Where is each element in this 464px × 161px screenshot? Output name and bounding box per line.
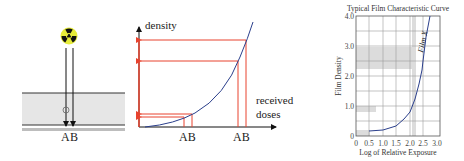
y-axis-title: Film Density xyxy=(334,56,343,96)
svg-text:1.5: 1.5 xyxy=(391,139,401,148)
svg-text:3.0: 3.0 xyxy=(432,139,442,148)
low-dose-pair-label: AB xyxy=(179,130,196,144)
radiation-icon xyxy=(60,26,78,44)
x-axis-label-line1: received xyxy=(256,94,294,106)
svg-text:1.0: 1.0 xyxy=(345,102,355,111)
chart-title: Typical Film Characteristic Curve xyxy=(347,4,450,13)
low-density-band xyxy=(356,106,376,112)
y-axis-label: density xyxy=(145,19,177,31)
x-axis-label-line2: doses xyxy=(256,108,280,120)
x-tick-labels: 0 0.5 1.0 1.5 2.0 2.5 3.0 xyxy=(354,139,442,148)
mid-density-band xyxy=(356,47,416,69)
density-dose-chart: density received doses AB AB xyxy=(139,19,294,144)
density-curve xyxy=(145,22,253,127)
high-dose-pair-label: AB xyxy=(233,130,250,144)
svg-text:2.0: 2.0 xyxy=(405,139,415,148)
svg-text:3.0: 3.0 xyxy=(345,42,355,51)
ray-b-label: B xyxy=(70,130,78,144)
curve-label: Film X xyxy=(416,29,430,54)
svg-text:2.0: 2.0 xyxy=(345,72,355,81)
svg-text:1.0: 1.0 xyxy=(378,139,388,148)
svg-text:4.0: 4.0 xyxy=(345,12,355,21)
diagram-canvas: density received doses AB AB A B xyxy=(0,0,464,161)
film-characteristic-chart: Film X Typical Film Characteristic Curve… xyxy=(334,4,450,157)
film-cross-section-panel xyxy=(22,26,125,131)
svg-text:0.5: 0.5 xyxy=(364,139,374,148)
svg-text:0: 0 xyxy=(354,139,358,148)
x-axis-title: Log of Relative Exposure xyxy=(359,148,437,157)
y-tick-labels: 4.0 3.0 2.0 1.0 0 xyxy=(345,12,355,141)
svg-text:2.5: 2.5 xyxy=(418,139,428,148)
ray-a-label: A xyxy=(61,130,70,144)
